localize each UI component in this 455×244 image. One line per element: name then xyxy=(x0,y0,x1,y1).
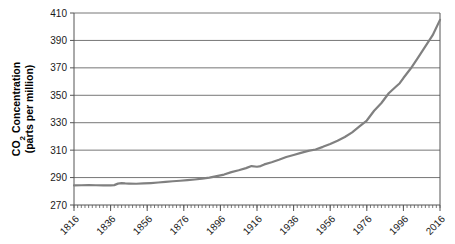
x-tick-label: 1836 xyxy=(94,213,118,237)
x-tick-label: 1896 xyxy=(204,213,228,237)
y-tick-label: 310 xyxy=(50,145,67,156)
x-tick-label: 1976 xyxy=(350,213,374,237)
x-tick-label-group: 1896 xyxy=(204,213,228,237)
x-tick-label: 1816 xyxy=(58,213,82,237)
y-tick-label: 270 xyxy=(50,200,67,211)
y-tick-label: 290 xyxy=(50,172,67,183)
x-tick-label-group: 1876 xyxy=(167,213,191,237)
y-axis-title-line2: (parts per million) xyxy=(23,65,35,154)
x-axis-ticks: 1816183618561876189619161936195619761996… xyxy=(58,205,448,237)
x-tick-label: 2016 xyxy=(424,213,448,237)
x-tick-label-group: 1936 xyxy=(277,213,301,237)
x-tick-label: 1956 xyxy=(314,213,338,237)
y-tick-label: 370 xyxy=(50,62,67,73)
x-tick-label-group: 1996 xyxy=(387,213,411,237)
x-tick-label: 1916 xyxy=(241,213,265,237)
y-axis-title: CO2 Concentration (parts per million) xyxy=(10,62,35,156)
y-axis-ticks: 270290310330350370390410 xyxy=(50,8,74,211)
chart-root: 270290310330350370390410 181618361856187… xyxy=(0,0,455,244)
co2-concentration-line-chart: 270290310330350370390410 181618361856187… xyxy=(0,0,455,244)
y-tick-label: 410 xyxy=(50,8,67,19)
x-tick-label-group: 1856 xyxy=(131,213,155,237)
x-tick-label: 1936 xyxy=(277,213,301,237)
y-tick-label: 330 xyxy=(50,117,67,128)
y-tick-label: 350 xyxy=(50,90,67,101)
x-tick-label-group: 1976 xyxy=(350,213,374,237)
x-tick-label-group: 1816 xyxy=(58,213,82,237)
x-tick-label-group: 1956 xyxy=(314,213,338,237)
plot-area-background xyxy=(74,13,440,205)
x-tick-label: 1876 xyxy=(167,213,191,237)
x-tick-label-group: 2016 xyxy=(424,213,448,237)
y-tick-label: 390 xyxy=(50,35,67,46)
x-tick-label: 1856 xyxy=(131,213,155,237)
y-axis-title-prefix: CO xyxy=(10,140,22,156)
x-tick-label-group: 1836 xyxy=(94,213,118,237)
x-tick-label: 1996 xyxy=(387,213,411,237)
x-tick-label-group: 1916 xyxy=(241,213,265,237)
